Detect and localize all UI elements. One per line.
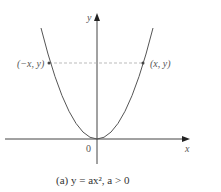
x-axis-arrow-icon	[182, 136, 190, 142]
point-left	[48, 62, 51, 65]
parabola-diagram: y x 0 (−x, y) (x, y) (a) y = ax², a > 0	[0, 0, 221, 192]
x-axis-label: x	[184, 143, 190, 154]
point-right-label: (x, y)	[150, 58, 171, 70]
y-axis-arrow-icon	[94, 13, 100, 21]
point-left-label: (−x, y)	[17, 58, 45, 70]
origin-label: 0	[86, 143, 91, 154]
caption: (a) y = ax², a > 0	[56, 174, 130, 187]
point-right	[142, 62, 145, 65]
y-axis-label: y	[86, 12, 92, 23]
